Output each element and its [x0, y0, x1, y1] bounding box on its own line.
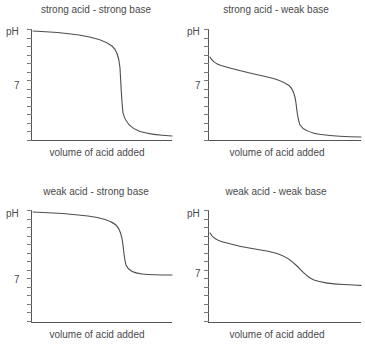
x-axis-label: volume of acid added [183, 147, 365, 159]
axis-lines [209, 30, 362, 141]
titration-curve [33, 212, 172, 275]
titration-curve [210, 233, 361, 285]
titration-curve [33, 31, 172, 136]
chart-panel-weak-acid-strong-base: weak acid - strong base pH 7 [0, 182, 182, 363]
chart-panel-weak-acid-weak-base: weak acid - weak base pH 7 [183, 182, 365, 363]
y-axis-ticks [27, 30, 32, 141]
titration-curves-figure: strong acid - strong base pH 7 [0, 0, 365, 363]
axis-lines [209, 211, 362, 323]
axis-lines [32, 211, 173, 323]
chart-panel-strong-acid-strong-base: strong acid - strong base pH 7 [0, 0, 182, 181]
x-axis-label: volume of acid added [0, 329, 182, 341]
x-axis-label: volume of acid added [183, 329, 365, 341]
y-axis-ticks [204, 30, 209, 141]
y-axis-ticks [27, 211, 32, 322]
chart-panel-strong-acid-weak-base: strong acid - weak base pH 7 [183, 0, 365, 181]
titration-curve [210, 57, 361, 137]
axis-lines [32, 30, 173, 141]
y-axis-ticks [204, 211, 209, 322]
x-axis-label: volume of acid added [0, 147, 182, 159]
